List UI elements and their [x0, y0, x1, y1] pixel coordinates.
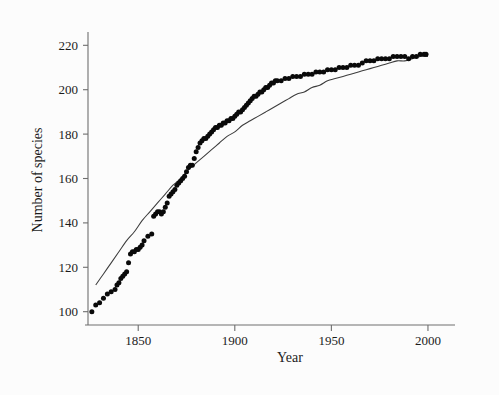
data-point [163, 205, 168, 210]
data-points [89, 52, 428, 314]
data-point [194, 149, 199, 154]
data-point [182, 174, 187, 179]
data-point [89, 309, 94, 314]
data-point [116, 280, 121, 285]
y-tick-label: 100 [59, 304, 79, 319]
species-accumulation-scatter-chart: 100120140160180200220 1850190019502000 N… [0, 0, 499, 395]
data-point [149, 231, 154, 236]
data-point [101, 296, 106, 301]
data-point [190, 163, 195, 168]
y-tick-label: 200 [59, 82, 79, 97]
data-point [192, 156, 197, 161]
x-axis-title: Year [277, 350, 303, 365]
y-tick-label: 140 [59, 215, 79, 230]
data-point [165, 200, 170, 205]
data-point [124, 269, 129, 274]
axes [85, 32, 455, 325]
y-axis-ticks: 100120140160180200220 [59, 38, 89, 319]
data-point [161, 209, 166, 214]
y-tick-label: 120 [59, 260, 79, 275]
x-tick-label: 1950 [318, 333, 344, 348]
y-tick-label: 220 [59, 38, 79, 53]
y-axis-title: Number of species [30, 128, 45, 233]
data-point [424, 52, 429, 57]
data-point [172, 187, 177, 192]
y-tick-label: 160 [59, 171, 79, 186]
data-point [113, 287, 118, 292]
x-tick-label: 2000 [415, 333, 441, 348]
x-axis-ticks: 1850190019502000 [125, 325, 441, 348]
data-point [126, 260, 131, 265]
chart-figure: 100120140160180200220 1850190019502000 N… [0, 0, 499, 395]
data-point [140, 243, 145, 248]
data-point [184, 169, 189, 174]
data-point [142, 238, 147, 243]
data-point [97, 300, 102, 305]
y-tick-label: 180 [59, 127, 79, 142]
data-point [196, 145, 201, 150]
x-tick-label: 1900 [222, 333, 248, 348]
x-tick-label: 1850 [125, 333, 151, 348]
